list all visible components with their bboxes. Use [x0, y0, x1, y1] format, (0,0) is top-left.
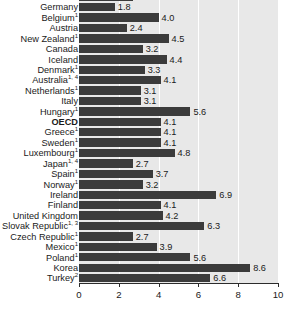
bar: [79, 97, 141, 105]
x-tick-label: 2: [116, 288, 121, 302]
x-tick-label: 0: [76, 288, 81, 302]
bar: [79, 86, 141, 94]
bar: [79, 45, 143, 53]
footnote-marker: 1: [75, 147, 78, 153]
x-axis-tick: [238, 283, 239, 287]
bar-rows: Switzerland2.7Germany1.8Belgium14.0Austr…: [0, 0, 285, 284]
bar: [79, 3, 115, 11]
x-axis-tick: [278, 283, 279, 287]
bar-chart: Switzerland2.7Germany1.8Belgium14.0Austr…: [0, 0, 285, 309]
x-axis-tick: [198, 283, 199, 287]
footnote-marker: 1, 3: [68, 220, 78, 226]
footnote-marker: 1: [75, 126, 78, 132]
footnote-marker: 1: [75, 231, 78, 237]
bar: [79, 107, 190, 115]
x-axis-tick: [119, 283, 120, 287]
footnote-marker: 1: [75, 168, 78, 174]
bar: [79, 191, 216, 199]
bar: [79, 55, 167, 63]
bar: [79, 243, 157, 251]
bar: [79, 128, 161, 136]
x-tick-label: 6: [196, 288, 201, 302]
footnote-marker: 1: [75, 85, 78, 91]
bar: [79, 138, 161, 146]
bar: [79, 232, 133, 240]
footnote-marker: 1, 4: [68, 158, 78, 164]
bar: [79, 34, 169, 42]
bar: [79, 13, 159, 21]
bar: [79, 180, 143, 188]
bar: [79, 118, 161, 126]
bar: [79, 24, 127, 32]
x-axis-line: [79, 283, 279, 284]
x-axis-tick: [79, 283, 80, 287]
bar: [79, 253, 190, 261]
footnote-marker: 1: [75, 137, 78, 143]
footnote-marker: 1: [75, 64, 78, 70]
bar: [79, 66, 145, 74]
x-axis-tick: [159, 283, 160, 287]
bar: [79, 149, 175, 157]
bar: [79, 76, 161, 84]
bar: [79, 170, 153, 178]
x-tick-label: 4: [156, 288, 161, 302]
bar: [79, 159, 133, 167]
footnote-marker: 2: [75, 272, 78, 278]
x-tick-label: 10: [273, 288, 284, 302]
footnote-marker: 1, 4: [68, 74, 78, 80]
footnote-marker: 1: [75, 178, 78, 184]
x-axis-tick-labels: 0246810: [0, 288, 285, 304]
footnote-marker: 1: [75, 33, 78, 39]
category-label: Turkey2: [47, 272, 78, 284]
footnote-marker: 1: [75, 12, 78, 18]
bar: [79, 274, 210, 282]
footnote-marker: 1: [75, 241, 78, 247]
x-tick-label: 8: [236, 288, 241, 302]
footnote-marker: 1: [75, 106, 78, 112]
bar: [79, 201, 161, 209]
bar: [79, 211, 163, 219]
bar: [79, 222, 204, 230]
bar: [79, 264, 250, 272]
footnote-marker: 1: [75, 251, 78, 257]
